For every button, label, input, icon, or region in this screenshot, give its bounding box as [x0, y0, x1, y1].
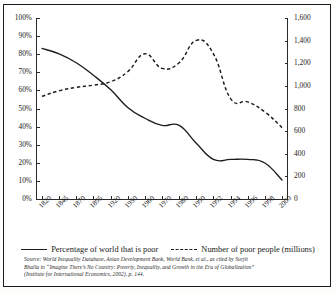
legend-label-percentage: Percentage of world that is poor — [51, 245, 158, 254]
y-tick-label-right: 400 — [294, 150, 305, 157]
y-tick-label-right: 600 — [294, 127, 305, 134]
y-tick-label-left: 40% — [18, 123, 32, 130]
x-tick-mark — [213, 196, 214, 199]
x-tick-mark — [76, 196, 77, 199]
x-tick-mark — [128, 196, 129, 199]
legend-item-number: Number of poor people (millions) — [171, 245, 315, 254]
y-tick-mark — [36, 18, 40, 19]
y-tick-label-left: 50% — [18, 105, 32, 112]
y-tick-mark — [36, 36, 40, 37]
y-tick-mark — [36, 109, 40, 110]
y-tick-label-right: 200 — [294, 172, 305, 179]
y-tick-mark — [285, 176, 289, 177]
x-tick-mark — [59, 196, 60, 199]
x-tick-mark — [145, 196, 146, 199]
y-tick-label-left: 60% — [18, 86, 32, 93]
y-tick-mark — [285, 41, 289, 42]
legend-item-percentage: Percentage of world that is poor — [21, 245, 158, 254]
solid-line-icon — [21, 249, 47, 250]
y-tick-label-right: 1,600 — [294, 14, 311, 21]
x-tick-mark — [282, 196, 283, 199]
y-tick-label-right: 0 — [294, 195, 298, 202]
y-tick-mark — [36, 181, 40, 182]
y-tick-mark — [285, 131, 289, 132]
source-note-line-3: (Institute for International Economics, … — [24, 271, 314, 279]
series-number-poor-people-line — [42, 40, 282, 128]
dashed-line-icon — [171, 249, 197, 250]
x-tick-mark — [248, 196, 249, 199]
poverty-chart-figure: 0%10%20%30%40%50%60%70%80%90%100% 020040… — [0, 0, 336, 294]
x-tick-mark — [196, 196, 197, 199]
y-tick-mark — [285, 63, 289, 64]
y-tick-mark — [285, 154, 289, 155]
y-tick-mark — [36, 54, 40, 55]
y-tick-label-left: 30% — [18, 141, 32, 148]
x-axis-labels: 1820184518701895192019501960197019801990… — [36, 202, 288, 242]
x-tick-mark — [179, 196, 180, 199]
y-tick-label-left: 0% — [22, 195, 32, 202]
y-tick-label-left: 100% — [15, 14, 32, 21]
chart-series-svg — [36, 18, 288, 197]
y-tick-mark — [285, 18, 289, 19]
y-tick-mark — [285, 86, 289, 87]
x-tick-mark — [265, 196, 266, 199]
y-tick-mark — [36, 163, 40, 164]
y-tick-mark — [36, 72, 40, 73]
y-tick-mark — [36, 145, 40, 146]
y-tick-mark — [285, 109, 289, 110]
y-tick-label-right: 1,200 — [294, 59, 311, 66]
y-tick-label-left: 10% — [18, 177, 32, 184]
x-tick-mark — [42, 196, 43, 199]
y-tick-label-right: 800 — [294, 105, 305, 112]
y-tick-label-right: 1,400 — [294, 37, 311, 44]
y-tick-label-right: 1,000 — [294, 82, 311, 89]
y-tick-mark — [285, 199, 289, 200]
y-tick-label-left: 70% — [18, 68, 32, 75]
source-note-line-1: Source: World Inequality Database, Asian… — [24, 256, 314, 264]
y-tick-mark — [36, 127, 40, 128]
source-note-line-2: Bhalla in “Imagine There’s No Country: P… — [24, 264, 314, 272]
x-tick-mark — [93, 196, 94, 199]
y-tick-label-left: 20% — [18, 159, 32, 166]
legend-label-number: Number of poor people (millions) — [201, 245, 315, 254]
y-tick-mark — [36, 90, 40, 91]
x-tick-mark — [162, 196, 163, 199]
x-tick-mark — [231, 196, 232, 199]
source-note: Source: World Inequality Database, Asian… — [24, 256, 314, 279]
y-tick-label-left: 90% — [18, 32, 32, 39]
x-tick-mark — [111, 196, 112, 199]
plot-area — [36, 18, 288, 197]
y-tick-label-left: 80% — [18, 50, 32, 57]
y-tick-mark — [36, 199, 40, 200]
chart-legend: Percentage of world that is poor Number … — [14, 243, 322, 256]
